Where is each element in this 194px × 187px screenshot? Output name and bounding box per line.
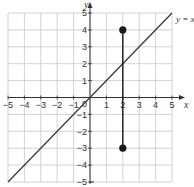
x-tick-label: 3 bbox=[137, 100, 142, 110]
y-axis-label: y bbox=[83, 0, 89, 10]
y-tick-label: −1 bbox=[77, 110, 87, 120]
x-tick-label: 5 bbox=[169, 100, 174, 110]
x-tick-label: 1 bbox=[104, 100, 109, 110]
y-tick-label: 1 bbox=[82, 76, 87, 86]
x-tick-label: 4 bbox=[153, 100, 158, 110]
y-tick-label: 4 bbox=[82, 25, 87, 35]
y-tick-label: 3 bbox=[82, 42, 87, 52]
axes bbox=[8, 2, 185, 184]
y-tick-label: −3 bbox=[77, 143, 87, 153]
y-tick-label: −4 bbox=[77, 160, 87, 170]
chart: −5−4−3−2−11234554321−1−2−3−4−50 xyy = x bbox=[0, 0, 194, 187]
y-tick-label: 2 bbox=[82, 59, 87, 69]
x-tick-label: −4 bbox=[19, 100, 29, 110]
x-axis-label: x bbox=[183, 99, 189, 110]
x-tick-label: −1 bbox=[68, 100, 78, 110]
axis-labels: xyy = x bbox=[83, 0, 194, 110]
y-tick-label: −5 bbox=[77, 177, 87, 187]
x-tick-label: −2 bbox=[52, 100, 62, 110]
segment-endpoint bbox=[119, 26, 126, 33]
x-tick-label: −5 bbox=[3, 100, 13, 110]
line-label: y = x bbox=[175, 14, 194, 24]
y-tick-label: −2 bbox=[77, 127, 87, 137]
segment-endpoint bbox=[119, 145, 126, 152]
x-tick-label: −3 bbox=[36, 100, 46, 110]
